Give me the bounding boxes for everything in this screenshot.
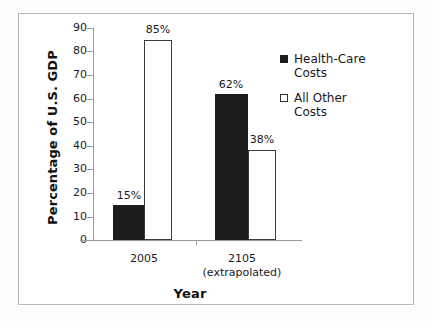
legend-label-health-care-costs-line1: Health-Care (294, 52, 405, 66)
y-tick-label-30-wrap: 30 (55, 163, 87, 174)
y-tick-label-70-wrap: 70 (55, 69, 87, 80)
x-category-sublabel-2105: (extrapolated) (192, 266, 292, 279)
x-category-label-2105: 2105 (202, 252, 282, 265)
y-tick-label-90-wrap: 90 (55, 22, 87, 33)
plot-area: 90 80 70 60 50 40 30 20 10 0 15% 85% 62%… (0, 0, 433, 321)
y-tick-50 (87, 122, 93, 123)
legend-entry-all-other-costs: All Other Costs (280, 91, 405, 119)
y-tick-label-50: 50 (61, 116, 87, 127)
y-tick-label-40-wrap: 40 (55, 140, 87, 151)
y-tick-80 (87, 51, 93, 52)
y-axis-line (93, 28, 94, 241)
bar-label-2105-all-other-costs: 38% (236, 134, 288, 146)
y-axis-title: Percentage of U.S. GDP (45, 38, 60, 238)
y-tick-30 (87, 169, 93, 170)
x-axis-line (80, 240, 302, 241)
y-tick-90 (87, 28, 93, 29)
y-tick-label-20-wrap: 20 (55, 187, 87, 198)
filled-square-icon (280, 55, 288, 63)
bar-2105-all-other-costs (248, 150, 276, 240)
bar-label-2105-health-care-costs: 62% (205, 79, 257, 91)
chart-legend: Health-Care Costs All Other Costs (280, 52, 405, 130)
y-tick-label-80-wrap: 80 (55, 45, 87, 56)
y-tick-label-70: 70 (61, 69, 87, 80)
y-tick-label-60-wrap: 60 (55, 93, 87, 104)
legend-label-all-other-costs-line1: All Other (294, 91, 405, 105)
x-axis-title: Year (110, 286, 270, 301)
bar-2005-health-care-costs (113, 205, 144, 240)
x-axis-separator-tick (196, 240, 197, 245)
legend-label-all-other-costs-line2: Costs (294, 105, 405, 119)
legend-entry-health-care-costs: Health-Care Costs (280, 52, 405, 80)
x-category-label-2005: 2005 (112, 252, 176, 265)
y-tick-label-80: 80 (61, 45, 87, 56)
y-tick-label-90: 90 (61, 22, 87, 33)
y-tick-label-30: 30 (61, 163, 87, 174)
y-tick-60 (87, 99, 93, 100)
bar-label-2005-all-other-costs: 85% (132, 24, 184, 36)
y-tick-label-40: 40 (61, 140, 87, 151)
y-tick-label-60: 60 (61, 93, 87, 104)
chart-figure: 90 80 70 60 50 40 30 20 10 0 15% 85% 62%… (0, 0, 433, 321)
hollow-square-icon (280, 94, 288, 102)
y-tick-20 (87, 193, 93, 194)
y-tick-label-10-wrap: 10 (55, 211, 87, 222)
y-tick-10 (87, 217, 93, 218)
y-tick-70 (87, 75, 93, 76)
y-tick-label-10: 10 (61, 211, 87, 222)
bar-2105-health-care-costs (215, 94, 248, 240)
bar-2005-all-other-costs (144, 40, 172, 240)
y-tick-label-50-wrap: 50 (55, 116, 87, 127)
legend-label-health-care-costs-line2: Costs (294, 66, 405, 80)
y-tick-label-20: 20 (61, 187, 87, 198)
y-tick-40 (87, 146, 93, 147)
